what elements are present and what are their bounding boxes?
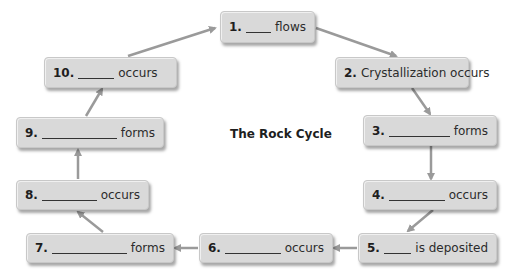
step-number: 8. xyxy=(25,188,38,202)
step-text: is deposited xyxy=(415,241,488,255)
arrow-7-to-8 xyxy=(78,212,103,232)
step-text: forms xyxy=(131,241,165,255)
step-text: flows xyxy=(275,20,306,34)
answer-blank[interactable] xyxy=(78,67,114,79)
step-number: 2. xyxy=(344,66,357,80)
answer-blank[interactable] xyxy=(225,242,281,254)
step-text: Crystallization occurs xyxy=(361,66,490,80)
step-6-box: 6. occurs xyxy=(199,233,333,263)
step-5-box: 5. is deposited xyxy=(358,233,497,263)
step-text: occurs xyxy=(118,66,157,80)
step-text: forms xyxy=(121,126,155,140)
step-number: 7. xyxy=(35,241,48,255)
step-number: 5. xyxy=(367,241,380,255)
step-9-box: 9. forms xyxy=(16,117,164,148)
diagram-title: The Rock Cycle xyxy=(230,127,332,141)
arrow-9-to-10 xyxy=(86,89,102,116)
answer-blank[interactable] xyxy=(384,242,411,254)
step-2-box: 2. Crystallization occurs xyxy=(335,57,469,88)
arrow-1-to-2 xyxy=(316,28,396,56)
step-text: occurs xyxy=(285,241,324,255)
answer-blank[interactable] xyxy=(389,125,450,137)
step-number: 6. xyxy=(208,241,221,255)
arrow-4-to-5 xyxy=(408,210,433,231)
answer-blank[interactable] xyxy=(42,127,117,139)
step-number: 9. xyxy=(25,126,38,140)
answer-blank[interactable] xyxy=(389,189,445,201)
step-10-box: 10. occurs xyxy=(44,57,177,88)
arrow-2-to-3 xyxy=(412,88,430,114)
answer-blank[interactable] xyxy=(246,21,271,33)
step-text: forms xyxy=(454,124,488,138)
step-text: occurs xyxy=(101,188,140,202)
step-1-box: 1. flows xyxy=(220,11,315,43)
step-3-box: 3. forms xyxy=(363,115,497,146)
step-text: occurs xyxy=(449,188,488,202)
step-number: 1. xyxy=(229,20,242,34)
step-number: 4. xyxy=(372,188,385,202)
answer-blank[interactable] xyxy=(42,189,97,201)
step-number: 10. xyxy=(53,66,74,80)
step-7-box: 7. forms xyxy=(26,233,174,263)
answer-blank[interactable] xyxy=(52,242,127,254)
step-number: 3. xyxy=(372,124,385,138)
arrow-10-to-1 xyxy=(128,28,215,56)
step-8-box: 8. occurs xyxy=(16,180,149,210)
step-4-box: 4. occurs xyxy=(363,180,497,210)
